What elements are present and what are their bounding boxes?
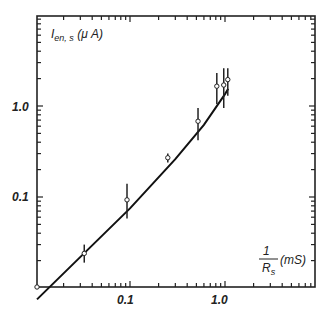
data-point xyxy=(196,119,200,123)
data-point xyxy=(215,84,219,88)
data-points xyxy=(35,68,230,289)
data-point xyxy=(82,251,86,255)
y-tick-label-1.0: 1.0 xyxy=(12,100,29,114)
axis-ticks xyxy=(37,16,315,287)
y-tick-label-0.1: 0.1 xyxy=(12,190,29,204)
log-log-chart: 0.1 1.0 0.1 1.0 Ien, s (μ A) 1 Rs (mS) xyxy=(0,0,331,318)
svg-text:(mS): (mS) xyxy=(280,253,306,267)
svg-text:1: 1 xyxy=(263,244,270,258)
data-point xyxy=(166,156,170,160)
y-axis-title: Ien, s (μ A) xyxy=(51,27,103,43)
data-point xyxy=(125,198,129,202)
plot-frame xyxy=(37,16,315,287)
data-point xyxy=(226,77,230,81)
svg-text:Rs: Rs xyxy=(262,261,276,277)
data-point xyxy=(35,285,39,289)
x-axis-title: 1 Rs (mS) xyxy=(259,244,306,277)
data-point xyxy=(222,83,226,87)
x-tick-label-1.0: 1.0 xyxy=(211,293,228,307)
x-tick-label-0.1: 0.1 xyxy=(117,293,134,307)
